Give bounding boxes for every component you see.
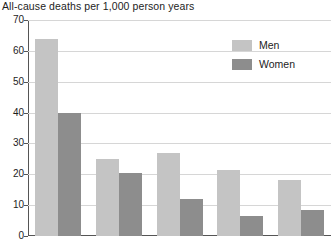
chart-title: All-cause deaths per 1,000 person years — [2, 0, 194, 13]
y-tick-label: 70 — [2, 15, 24, 25]
legend-item-women: Women — [232, 55, 295, 74]
y-tick-label: 30 — [2, 138, 24, 148]
y-tick-label: 0 — [2, 231, 24, 241]
bar-chart: All-cause deaths per 1,000 person years … — [0, 0, 333, 252]
y-tick-mark — [24, 20, 28, 21]
y-tick-mark — [24, 205, 28, 206]
bar-women-group-2 — [119, 173, 142, 236]
bar-men-group-4 — [217, 170, 240, 236]
y-tick-mark — [24, 236, 28, 237]
y-tick-mark — [24, 82, 28, 83]
y-tick-label: 10 — [2, 200, 24, 210]
legend-swatch-men-icon — [232, 40, 252, 51]
y-tick-mark — [24, 113, 28, 114]
bar-men-group-3 — [157, 153, 180, 236]
y-tick-label: 20 — [2, 169, 24, 179]
legend-item-men: Men — [232, 36, 295, 55]
legend-swatch-women-icon — [232, 59, 252, 70]
y-tick-mark — [24, 51, 28, 52]
bar-women-group-4 — [240, 216, 263, 236]
y-tick-label: 60 — [2, 46, 24, 56]
y-tick-mark — [24, 174, 28, 175]
bar-women-group-3 — [180, 199, 203, 236]
chart-legend: Men Women — [232, 36, 295, 74]
bar-men-group-2 — [96, 159, 119, 236]
bar-men-group-5 — [278, 180, 301, 236]
bar-women-group-1 — [58, 113, 81, 236]
y-tick-label: 50 — [2, 77, 24, 87]
bar-women-group-5 — [301, 210, 324, 236]
y-tick-mark — [24, 143, 28, 144]
gridline — [28, 82, 331, 83]
gridline — [28, 20, 331, 21]
bar-men-group-1 — [35, 39, 58, 236]
legend-label-women: Women — [259, 59, 295, 70]
legend-label-men: Men — [259, 40, 279, 51]
y-tick-label: 40 — [2, 108, 24, 118]
